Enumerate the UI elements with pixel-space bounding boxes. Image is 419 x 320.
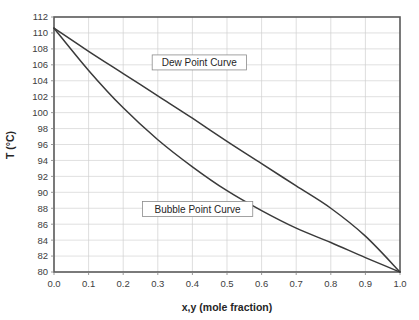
y-tick-label: 82 [37,250,48,261]
curve-label-dew: Dew Point Curve [152,55,246,70]
y-tick-label: 112 [33,11,48,22]
y-tick-label: 94 [37,155,48,166]
y-tick-label: 98 [37,123,48,134]
y-axis-title: T (°C) [4,131,16,159]
y-tick-label: 108 [32,43,48,54]
y-tick-label: 80 [37,266,48,277]
y-tick-label: 102 [32,91,48,102]
y-tick-label: 110 [33,27,48,38]
y-tick-label: 88 [37,203,48,214]
x-tick-label: 0.7 [290,278,303,289]
curve-label-bubble: Bubble Point Curve [142,202,252,217]
x-tick-label: 0.8 [324,278,337,289]
curve-label-text: Dew Point Curve [162,57,237,68]
y-tick-label: 104 [32,75,48,86]
x-tick-label: 0.4 [186,278,199,289]
x-tick-label: 0.3 [151,278,164,289]
x-tick-label: 0.9 [359,278,372,289]
y-tick-label: 86 [37,219,48,230]
y-tick-label: 84 [37,235,48,246]
x-tick-label: 0.6 [255,278,268,289]
x-tick-label: 0.1 [82,278,95,289]
x-tick-label: 0.2 [117,278,130,289]
y-tick-label: 90 [37,187,48,198]
curve-label-text: Bubble Point Curve [155,204,242,215]
x-tick-label: 1.0 [393,278,406,289]
x-tick-label: 0.0 [47,278,60,289]
y-tick-label: 92 [37,171,48,182]
x-tick-label: 0.5 [220,278,233,289]
chart-container: 8082848688909294969810010210410610811011… [0,0,419,320]
y-tick-label: 106 [32,59,48,70]
y-tick-label: 100 [32,107,48,118]
txy-phase-diagram: 8082848688909294969810010210410610811011… [0,0,419,320]
y-tick-label: 96 [37,139,48,150]
x-axis-title: x,y (mole fraction) [182,301,272,313]
